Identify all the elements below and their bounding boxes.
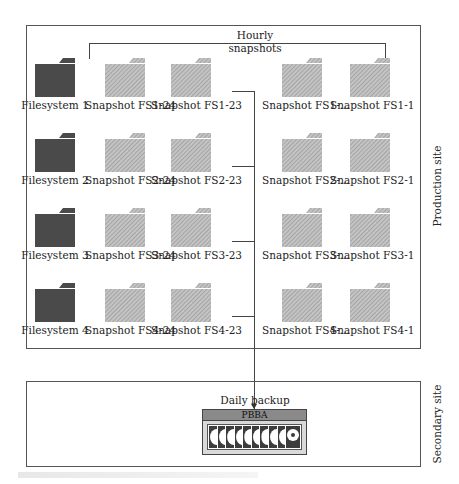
filesystem-label: Filesystem 1 [15, 99, 95, 111]
filesystem-label: Filesystem 2 [15, 174, 95, 186]
disk-icon [252, 426, 260, 448]
snapshot-folder-icon[interactable] [282, 132, 324, 172]
snapshot-folder-icon[interactable] [105, 132, 147, 172]
snapshot-connector-line [232, 166, 255, 167]
snapshot-label: Snapshot FS4-23 [151, 324, 231, 336]
snapshots-bracket-left [89, 43, 90, 59]
snapshot-folder-icon[interactable] [282, 57, 324, 97]
snapshot-label: Snapshot FS1-1 [330, 99, 410, 111]
filesystem-folder-icon[interactable] [35, 57, 77, 97]
disk-drive-icon [286, 426, 300, 448]
disk-icon [269, 426, 277, 448]
snapshot-folder-icon[interactable] [350, 57, 392, 97]
filesystem-label: Filesystem 4 [15, 324, 95, 336]
disk-icon [260, 426, 268, 448]
filesystem-folder-icon[interactable] [35, 207, 77, 247]
snapshot-folder-icon[interactable] [105, 207, 147, 247]
snapshot-folder-icon[interactable] [105, 57, 147, 97]
collector-line [254, 91, 255, 409]
snapshot-folder-icon[interactable] [171, 207, 213, 247]
snapshot-label: Snapshot FS2-23 [151, 174, 231, 186]
snapshot-folder-icon[interactable] [350, 132, 392, 172]
snapshot-label: Snapshot FS2-1 [330, 174, 410, 186]
disk-icon [209, 426, 217, 448]
pbba-header: PBBA [203, 410, 306, 421]
disk-icon [243, 426, 251, 448]
disk-array [207, 424, 302, 450]
bracket-label-snapshots: snapshots [225, 42, 285, 54]
snapshot-connector-line [232, 316, 255, 317]
snapshot-connector-line [232, 241, 255, 242]
snapshot-folder-icon[interactable] [171, 57, 213, 97]
bracket-label-hourly: Hourly [230, 29, 280, 41]
production-site-label: Production site [431, 141, 443, 231]
snapshot-folder-icon[interactable] [171, 132, 213, 172]
snapshot-connector-line [232, 91, 255, 92]
snapshot-label: Snapshot FS4-1 [330, 324, 410, 336]
snapshot-folder-icon[interactable] [105, 282, 147, 322]
filesystem-folder-icon[interactable] [35, 132, 77, 172]
pbba-device: PBBA [202, 409, 307, 455]
secondary-site-label: Secondary site [431, 379, 443, 469]
figure-caption [18, 472, 258, 478]
snapshot-folder-icon[interactable] [282, 282, 324, 322]
snapshot-label: Snapshot FS3-1 [330, 249, 410, 261]
disk-icon [218, 426, 226, 448]
snapshot-folder-icon[interactable] [350, 207, 392, 247]
snapshot-label: Snapshot FS3-23 [151, 249, 231, 261]
snapshot-folder-icon[interactable] [350, 282, 392, 322]
disk-icon [226, 426, 234, 448]
disk-icon [235, 426, 243, 448]
pbba-label: PBBA [242, 410, 268, 420]
disk-icon [278, 426, 286, 448]
filesystem-folder-icon[interactable] [35, 282, 77, 322]
snapshot-folder-icon[interactable] [171, 282, 213, 322]
filesystem-label: Filesystem 3 [15, 249, 95, 261]
snapshot-folder-icon[interactable] [282, 207, 324, 247]
snapshot-label: Snapshot FS1-23 [151, 99, 231, 111]
